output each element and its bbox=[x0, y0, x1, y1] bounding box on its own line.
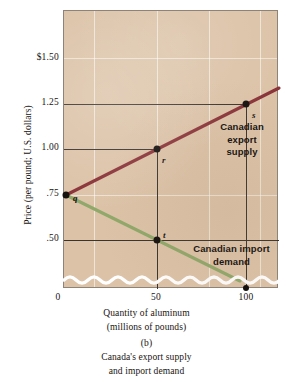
y-tick-0-50: .50 bbox=[47, 233, 59, 243]
annotation-import-demand-line2: demand bbox=[184, 256, 279, 269]
annotation-export-supply-line3: supply bbox=[205, 146, 279, 159]
x-tick-50: 50 bbox=[146, 292, 166, 302]
y-tick-1-00: 1.00 bbox=[42, 142, 59, 152]
x-axis-label-line1: Quantity of aluminum bbox=[0, 306, 293, 320]
data-point-label-q: q bbox=[73, 193, 78, 203]
figure-caption: (b) Canada's export supply and import de… bbox=[0, 336, 293, 378]
x-tick-100: 100 bbox=[234, 292, 258, 302]
y-tick-0-75: .75 bbox=[47, 188, 59, 198]
figure-caption-line1: Canada's export supply bbox=[0, 350, 293, 364]
y-tick-1-25: 1.25 bbox=[42, 97, 59, 107]
plot-area: q r s t Canadian export supply Canadian … bbox=[63, 10, 278, 288]
data-point-t bbox=[154, 237, 161, 244]
data-point-label-t: t bbox=[163, 230, 166, 240]
y-tick-1-50: $1.50 bbox=[37, 52, 59, 62]
x-tick-0: 0 bbox=[48, 292, 68, 302]
figure-caption-line2: and import demand bbox=[0, 364, 293, 378]
x-axis-label-line2: (millions of pounds) bbox=[0, 320, 293, 334]
data-point-s bbox=[243, 101, 250, 108]
annotation-import-demand-line1: Canadian import bbox=[184, 243, 279, 256]
figure-panel-label: (b) bbox=[0, 336, 293, 350]
data-point-label-r: r bbox=[162, 155, 166, 165]
annotation-export-supply-line1: Canadian bbox=[205, 121, 279, 134]
data-point-label-s: s bbox=[252, 110, 256, 120]
x-axis-marker-100 bbox=[243, 285, 249, 291]
annotation-import-demand: Canadian import demand bbox=[184, 243, 279, 268]
y-axis-label: Price (per pound; U.S. dollars) bbox=[23, 90, 33, 240]
annotation-export-supply: Canadian export supply bbox=[205, 121, 279, 159]
data-point-r bbox=[154, 146, 161, 153]
data-point-q bbox=[63, 192, 70, 199]
x-axis-label: Quantity of aluminum (millions of pounds… bbox=[0, 306, 293, 334]
annotation-export-supply-line2: export bbox=[205, 134, 279, 147]
